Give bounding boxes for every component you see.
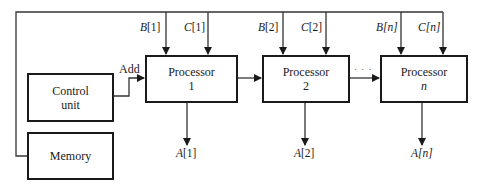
processor-1-box: Processor 1 [145, 55, 238, 103]
processor-2-title: Processor [283, 65, 330, 79]
control-unit-box: Control unit [27, 73, 114, 122]
processor-2-index: 2 [303, 79, 309, 93]
add-signal-label: Add [119, 62, 140, 77]
memory-box: Memory [27, 132, 114, 180]
control-unit-label-line2: unit [61, 98, 80, 112]
output-a2-label: A[2] [294, 147, 314, 159]
input-c2-label: C[2] [301, 21, 322, 33]
ellipsis-label: · · · [354, 64, 373, 74]
processor-2-box: Processor 2 [262, 55, 350, 103]
output-a1-label: A[1] [176, 147, 196, 159]
processor-n-title: Processor [401, 65, 448, 79]
processor-n-index: n [421, 79, 427, 93]
input-b2-label: B[2] [258, 21, 278, 33]
memory-label: Memory [50, 149, 91, 163]
output-an-label: A[n] [411, 147, 433, 159]
control-unit-label-line1: Control [52, 84, 89, 98]
processor-1-title: Processor [168, 65, 215, 79]
processor-1-index: 1 [189, 79, 195, 93]
input-bn-label: B[n] [376, 21, 398, 33]
input-c1-label: C[1] [184, 21, 205, 33]
input-b1-label: B[1] [140, 21, 160, 33]
input-cn-label: C[n] [418, 21, 440, 33]
processor-n-box: Processor n [380, 55, 468, 103]
